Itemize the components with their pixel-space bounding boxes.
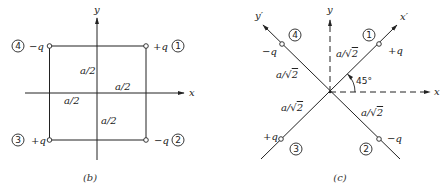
charge-label-2: −q [154,135,169,146]
charge-marker-2 [377,137,382,142]
charge-marker-1 [144,44,149,49]
charge-marker-2 [144,138,149,143]
charge-label-3: +q [263,131,278,142]
circled-number-3: 3 [12,134,24,146]
circled-number-4: 4 [12,40,24,52]
charge-marker-4 [280,42,285,47]
charge-label-1: +q [153,41,168,52]
charge-marker-4 [47,44,52,49]
svg-text:1: 1 [366,30,372,40]
dim-left-half: a/2 [64,95,80,106]
distance-label-1: a/√2 [336,48,358,59]
figure-c: y x x′ y′ 45° +q −q +q −q 1 4 [254,4,440,183]
caption-c: (c) [333,172,347,183]
y-axis-label: y [326,4,333,15]
distance-label-2: a/√2 [361,107,383,118]
angle-label: 45° [356,76,372,86]
y-axis-label: y [93,4,100,15]
svg-text:2: 2 [363,144,369,154]
circled-number-2: 2 [360,143,372,155]
y-prime-label: y′ [254,10,264,21]
svg-text:a/√2: a/√2 [361,107,383,118]
x-prime-label: x′ [400,11,409,22]
circled-number-4: 4 [289,29,301,41]
circled-number-3: 3 [290,143,302,155]
charge-marker-3 [47,138,52,143]
charge-marker-1 [377,42,382,47]
distance-label-3: a/√2 [281,102,303,113]
dim-lower-half: a/2 [101,115,117,126]
charge-label-1: +q [388,45,403,56]
caption-b: (b) [83,172,97,183]
svg-text:a/√2: a/√2 [281,102,303,113]
svg-text:2: 2 [175,135,181,145]
charge-label-3: +q [31,135,46,146]
origin [329,91,332,94]
dim-upper-half: a/2 [80,65,96,76]
distance-label-4: a/√2 [276,69,298,80]
svg-text:3: 3 [15,135,21,145]
svg-text:3: 3 [293,144,299,154]
charge-label-2: −q [387,133,402,144]
circled-number-1: 1 [172,40,184,52]
svg-text:1: 1 [175,41,181,51]
charge-label-4: −q [262,46,277,57]
x-axis-label: x [189,87,195,98]
angle-arc [348,74,355,92]
figure-b: x y −q +q +q −q 4 1 3 2 a/2 [12,4,195,183]
circled-number-2: 2 [172,134,184,146]
svg-text:a/√2: a/√2 [276,69,298,80]
x-axis-label: x [434,86,440,97]
svg-text:4: 4 [15,41,21,51]
charge-label-4: −q [29,41,44,52]
circled-number-1: 1 [363,29,375,41]
svg-text:4: 4 [292,30,298,40]
dim-right-half: a/2 [115,81,131,92]
svg-text:a/√2: a/√2 [336,48,358,59]
charge-marker-3 [279,137,284,142]
